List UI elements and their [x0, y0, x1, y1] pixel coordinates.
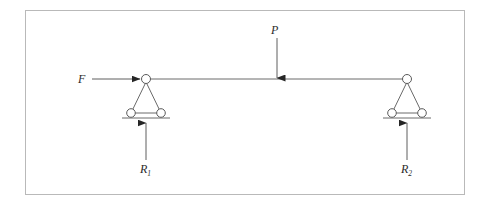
left-support-roller-icon-b	[157, 109, 166, 118]
force-F-label: F	[78, 73, 85, 85]
left-support	[122, 75, 170, 119]
figure-screenshot: F P R1 R2	[0, 0, 489, 207]
reaction-R1-label: R1	[140, 163, 151, 178]
reaction-R2-label: R2	[401, 163, 412, 178]
right-support-strut-a	[392, 82, 407, 113]
reaction-R2-subscript: 2	[408, 169, 412, 178]
left-support-strut-a	[131, 82, 146, 113]
reaction-R1-subscript: 1	[147, 169, 151, 178]
right-support-pin-icon	[403, 75, 412, 84]
left-support-roller-icon-a	[127, 109, 136, 118]
right-support-roller-icon-b	[418, 109, 427, 118]
right-support-roller-icon-a	[388, 109, 397, 118]
left-support-pin-icon	[142, 75, 151, 84]
right-support	[383, 75, 431, 119]
left-support-strut-b	[146, 82, 161, 113]
load-P-label: P	[271, 24, 278, 36]
beam-free-body-diagram	[0, 0, 489, 207]
right-support-strut-b	[407, 82, 422, 113]
